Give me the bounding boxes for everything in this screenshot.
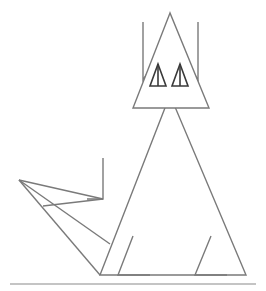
fox-drawing <box>0 0 266 291</box>
background <box>0 0 266 291</box>
drawing-canvas <box>0 0 266 291</box>
